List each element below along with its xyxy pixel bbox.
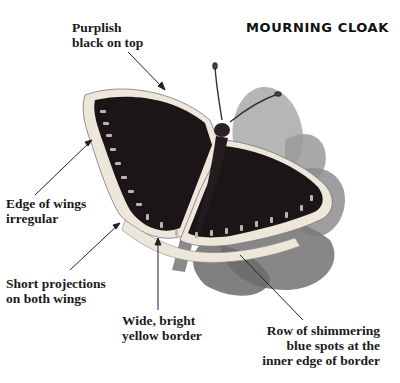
label-purplish-black: Purplish black on top: [72, 20, 143, 50]
page-title: MOURNING CLOAK: [246, 20, 389, 35]
label-yellow-border: Wide, bright yellow border: [122, 313, 202, 343]
label-irregular-edge: Edge of wings irregular: [6, 196, 86, 226]
field-guide-page: MOURNING CLOAK Purplish black on top Edg…: [0, 0, 400, 383]
label-blue-spots: Row of shimmering blue spots at the inne…: [262, 323, 380, 368]
label-short-projections: Short projections on both wings: [6, 276, 106, 306]
